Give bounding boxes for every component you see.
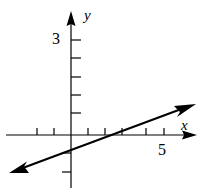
coordinate-plane-svg [0,0,200,191]
y-axis-label: y [84,8,91,23]
x-axis-label: x [181,118,188,133]
y-axis-arrowhead [67,11,76,26]
y-tick-label-3: 3 [52,31,60,47]
x-axis-ticks [37,128,164,135]
graph-figure: y x 3 5 [0,0,200,191]
plotted-line [9,104,196,173]
y-axis [67,11,76,188]
x-tick-label-5: 5 [158,142,166,158]
